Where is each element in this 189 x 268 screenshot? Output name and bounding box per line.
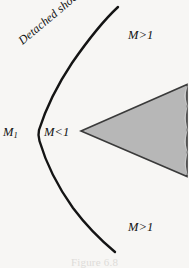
wedge-body-shape bbox=[81, 85, 187, 177]
figure-caption: Figure 6.8 bbox=[0, 256, 189, 268]
label-upstream-mach-text: M bbox=[3, 125, 14, 139]
label-supersonic-top: M>1 bbox=[128, 29, 153, 42]
label-upstream-mach: M1 bbox=[3, 126, 18, 139]
figure-container: M1 M<1 M>1 M>1 Detached shock Figure 6.8 bbox=[0, 0, 189, 268]
label-supersonic-bottom: M>1 bbox=[128, 221, 153, 234]
label-subsonic-region: M<1 bbox=[44, 126, 69, 139]
label-upstream-mach-subscript: 1 bbox=[14, 130, 18, 140]
